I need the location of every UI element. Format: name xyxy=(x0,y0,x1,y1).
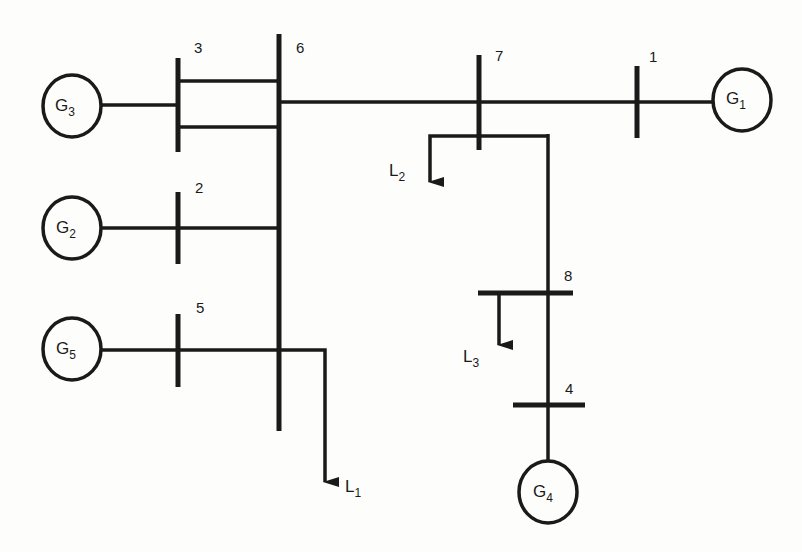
load-l2-label: L2 xyxy=(389,161,405,184)
load-l2-feeder xyxy=(430,136,479,182)
bus-5-label: 5 xyxy=(196,299,204,316)
bus-3-label: 3 xyxy=(194,39,202,56)
generator-g5-label: G5 xyxy=(56,339,76,362)
generator-g4-label: G4 xyxy=(533,482,553,505)
bus-7-label: 7 xyxy=(495,47,503,64)
bus-2-label: 2 xyxy=(195,179,203,196)
bus-8-label: 8 xyxy=(564,267,572,284)
generator-g3-label: G3 xyxy=(55,96,75,119)
load-l1-feeder xyxy=(279,350,325,482)
bus-1-label: 1 xyxy=(649,48,657,65)
bus-4-label: 4 xyxy=(565,380,573,397)
generator-g1-label: G1 xyxy=(726,89,746,112)
power-system-diagram: G3 G2 G5 G1 G4 L1 L2 L3 3 6 2 5 7 1 8 4 xyxy=(0,0,802,552)
load-l3-label: L3 xyxy=(463,347,479,370)
load-l1-label: L1 xyxy=(345,477,361,500)
bus-6-label: 6 xyxy=(296,39,304,56)
generator-g2-label: G2 xyxy=(56,218,76,241)
